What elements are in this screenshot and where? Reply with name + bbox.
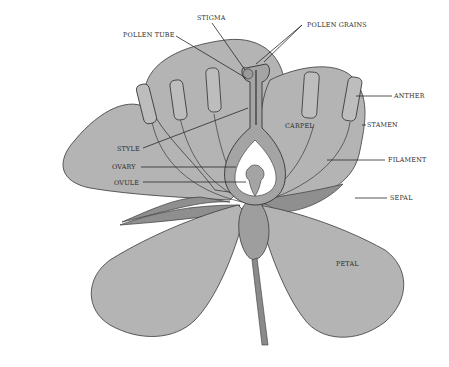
label-pollen-grains: POLLEN GRAINS	[307, 21, 367, 29]
label-filament: FILAMENT	[388, 156, 427, 164]
anther-4	[301, 72, 319, 119]
flower-diagram: STIGMA POLLEN GRAINS POLLEN TUBE ANTHER …	[0, 0, 449, 367]
petal-front-right	[258, 205, 404, 337]
label-carpel: CARPEL	[285, 122, 314, 130]
petal-front-center	[239, 203, 269, 260]
leader-pollen-grains-2	[264, 25, 302, 62]
label-stigma: STIGMA	[197, 14, 226, 22]
label-style: STYLE	[117, 145, 140, 153]
stem	[252, 258, 268, 345]
petal-front-left	[91, 205, 245, 336]
anther-3	[205, 68, 221, 113]
label-pollen-tube: POLLEN TUBE	[123, 31, 175, 39]
label-stamen: STAMEN	[367, 121, 398, 129]
label-ovule: OVULE	[114, 179, 139, 187]
label-anther: ANTHER	[393, 92, 425, 100]
label-ovary: OVARY	[112, 163, 136, 171]
label-sepal: SEPAL	[390, 194, 413, 202]
label-petal: PETAL	[336, 260, 359, 268]
leader-pollen-grains-1	[256, 25, 302, 64]
